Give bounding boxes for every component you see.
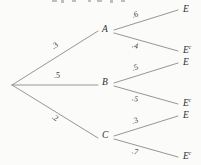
probability-tree-figure: A B C .3 .5 .2 .6 .4 .5 .5 .3 .7 E Ec E … bbox=[0, 0, 201, 165]
branch-b-e bbox=[114, 63, 178, 83]
leaf-a-e: E bbox=[183, 5, 189, 15]
branch-c-e bbox=[114, 116, 178, 136]
leaf-c-ec: Ec bbox=[183, 152, 191, 162]
leaf-c-e: E bbox=[183, 111, 189, 121]
node-b: B bbox=[102, 78, 108, 88]
tree-branches bbox=[0, 0, 201, 165]
branch-b-ec bbox=[114, 86, 178, 104]
branch-a-e bbox=[114, 10, 178, 30]
leaf-a-ec: Ec bbox=[183, 46, 191, 56]
leaf-a-e-text: E bbox=[183, 4, 189, 14]
leaf-a-ec-superscript: c bbox=[189, 44, 191, 50]
leaf-c-ec-superscript: c bbox=[189, 150, 191, 156]
cropped-caption-remnant bbox=[0, 0, 201, 5]
leaf-b-e-text: E bbox=[183, 57, 189, 67]
branch-a-ec bbox=[114, 33, 178, 51]
leaf-c-e-text: E bbox=[183, 110, 189, 120]
probability-root-b: .5 bbox=[54, 72, 60, 80]
leaf-b-ec-superscript: c bbox=[189, 97, 191, 103]
leaf-b-e: E bbox=[183, 58, 189, 68]
leaf-b-ec: Ec bbox=[183, 99, 191, 109]
branch-c-ec bbox=[114, 139, 178, 157]
node-a: A bbox=[102, 25, 108, 35]
node-c: C bbox=[102, 131, 108, 141]
